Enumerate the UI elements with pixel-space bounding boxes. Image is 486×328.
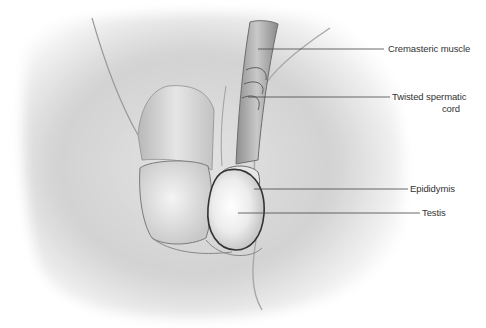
label-twisted-spermatic-cord: Twisted spermatic cord: [392, 91, 460, 115]
label-cremasteric-muscle: Cremasteric muscle: [388, 43, 470, 55]
skin-background: [23, 13, 404, 318]
label-testis: Testis: [422, 207, 446, 219]
anatomy-diagram: Cremasteric muscle Twisted spermatic cor…: [0, 0, 486, 328]
label-twisted-spermatic-cord-line1: Twisted spermatic: [392, 91, 460, 103]
label-twisted-spermatic-cord-line2: cord: [392, 103, 460, 115]
label-epididymis: Epididymis: [410, 183, 455, 195]
